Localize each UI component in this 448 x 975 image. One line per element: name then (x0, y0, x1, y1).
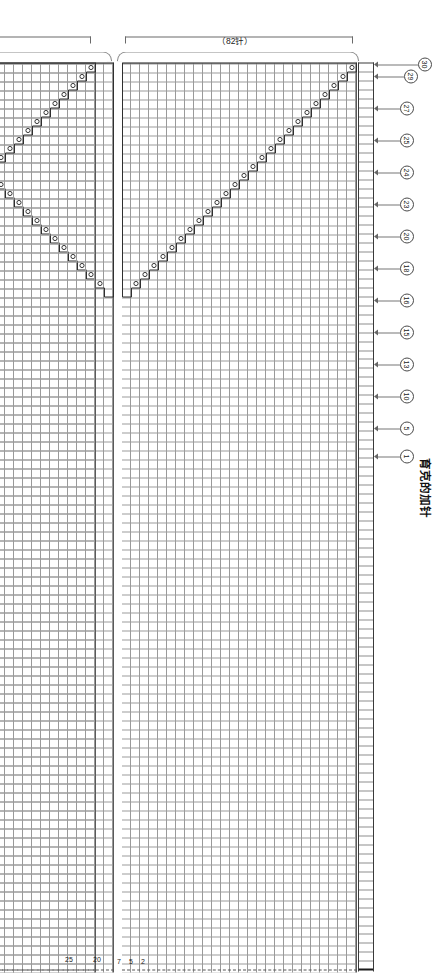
bracket-tip-top (352, 36, 353, 43)
stitch-ruler-cell (359, 899, 373, 908)
row-marker-label: 24 (400, 165, 414, 179)
yarn-over-symbol (260, 155, 264, 159)
row-marker[interactable]: 23 (400, 197, 414, 213)
stitch-ruler-cell (359, 890, 373, 899)
stitch-ruler-cell (359, 449, 373, 458)
yarn-over-symbol (323, 92, 327, 96)
row-marker[interactable]: 16 (400, 293, 414, 309)
inner-row-number: 5 (129, 957, 133, 964)
stitch-ruler-cell (359, 297, 373, 306)
selvedge-dashed-line (0, 969, 96, 970)
stitch-ruler-cell (359, 647, 373, 656)
stitch-ruler-cell (359, 656, 373, 665)
panel-back-body (123, 62, 357, 971)
stitch-ruler-cell (359, 638, 373, 647)
row-marker[interactable]: 15 (400, 325, 414, 341)
stitch-count-label: （89针） (0, 33, 5, 45)
row-marker-arrow-icon (374, 201, 378, 207)
stitch-ruler-cell (359, 368, 373, 377)
inner-row-number: 2 (141, 957, 145, 964)
stitch-ruler-cell (359, 171, 373, 180)
row-marker-leader-line (378, 456, 400, 457)
worked-area-outline (0, 62, 96, 973)
stitch-ruler-cell (359, 377, 373, 386)
row-marker-arrow-icon (374, 453, 378, 459)
row-marker[interactable]: 30 (418, 57, 432, 73)
stitch-ruler-cell (359, 270, 373, 279)
row-marker-arrow-icon (374, 297, 378, 303)
stitch-ruler-cell (359, 359, 373, 368)
yarn-over-symbol (98, 281, 102, 285)
row-marker-leader-line (378, 236, 400, 237)
yarn-over-symbol (170, 245, 174, 249)
stitch-ruler-cell (359, 854, 373, 863)
yarn-over-symbol (188, 227, 192, 231)
stitch-ruler-cell (359, 413, 373, 422)
row-marker-leader-line (378, 332, 400, 333)
row-marker-label: 23 (400, 197, 414, 211)
yarn-over-symbol (0, 155, 3, 159)
panel-bracket-left-middle (0, 51, 112, 61)
row-marker-arrow-icon (374, 361, 378, 367)
row-marker[interactable]: 20 (400, 229, 414, 245)
stitch-ruler-cell (359, 503, 373, 512)
stitch-ruler-cell (359, 791, 373, 800)
stitch-ruler-cell (359, 422, 373, 431)
stitch-ruler-cell (359, 917, 373, 926)
row-marker-label: 20 (400, 229, 414, 243)
row-marker[interactable]: 13 (400, 357, 414, 373)
stitch-ruler-cell (359, 467, 373, 476)
stitch-ruler-cell (359, 701, 373, 710)
stitch-ruler-cell (359, 575, 373, 584)
stitch-ruler-cell (359, 952, 373, 961)
bracket-tip-top (90, 36, 91, 43)
row-marker[interactable]: 27 (400, 101, 414, 117)
stitch-ruler-cell (359, 315, 373, 324)
stitch-ruler-cell (359, 728, 373, 737)
selvedge-dashed-line (122, 969, 357, 970)
yarn-over-symbol (350, 65, 354, 69)
stitch-ruler-cell (359, 818, 373, 827)
row-marker-leader-line (378, 428, 400, 429)
stitch-ruler-cell (359, 189, 373, 198)
row-marker[interactable]: 5 (400, 421, 414, 437)
yarn-over-symbol (89, 65, 93, 69)
row-marker-leader-line (378, 396, 400, 397)
stitch-ruler-cell (359, 243, 373, 252)
stitch-ruler-cell (359, 404, 373, 413)
stitch-ruler-cell (359, 458, 373, 467)
stitch-ruler-cell (359, 198, 373, 207)
yarn-over-symbol (134, 281, 138, 285)
row-marker-arrow-icon (374, 73, 378, 79)
stitch-ruler-cell (359, 351, 373, 360)
row-marker[interactable]: 25 (400, 133, 414, 149)
stitch-ruler-cell (359, 530, 373, 539)
stitch-ruler-cell (359, 99, 373, 108)
row-marker[interactable]: 18 (400, 261, 414, 277)
stitch-ruler-cell (359, 683, 373, 692)
row-marker-arrow-icon (374, 425, 378, 431)
yarn-over-symbol (35, 119, 39, 123)
stitch-ruler-cell (359, 431, 373, 440)
row-marker[interactable]: 29 (404, 69, 418, 85)
yarn-over-symbol (224, 191, 228, 195)
row-marker[interactable]: 24 (400, 165, 414, 181)
yarn-over-symbol (242, 173, 246, 177)
row-marker[interactable]: 1 (400, 449, 414, 465)
stitch-ruler-cell (359, 674, 373, 683)
page-title: 育克的加针 (418, 0, 434, 975)
row-marker[interactable]: 10 (400, 389, 414, 405)
stitch-ruler-cell (359, 180, 373, 189)
yarn-over-symbol (26, 128, 30, 132)
yarn-over-symbol (8, 146, 12, 150)
stitch-ruler-cell (359, 90, 373, 99)
stitch-ruler-cell (359, 324, 373, 333)
row-marker-leader-line (378, 76, 404, 77)
stitch-ruler-cell (359, 710, 373, 719)
yarn-over-symbol (53, 101, 57, 105)
stitch-ruler-cell (359, 63, 373, 72)
staircase-outline (121, 62, 357, 973)
stitch-ruler-cell (359, 72, 373, 81)
row-marker-label: 29 (404, 69, 418, 83)
row-marker-leader-line (378, 108, 400, 109)
